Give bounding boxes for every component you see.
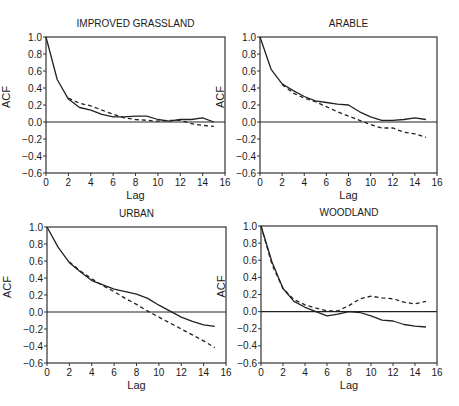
x-tick-label: 16 — [219, 177, 231, 188]
y-tick-label: −0.2 — [237, 323, 257, 334]
panel-urban: URBAN1.00.80.60.40.20.0−0.2−0.4−0.602468… — [1, 208, 232, 391]
x-tick-label: 4 — [301, 177, 307, 188]
x-tick-label: 4 — [302, 367, 308, 378]
x-tick-label: 6 — [324, 177, 330, 188]
x-tick-label: 14 — [198, 367, 210, 378]
y-tick-label: 0.2 — [29, 290, 43, 301]
y-tick-label: 0.0 — [28, 117, 42, 128]
x-tick-label: 14 — [409, 367, 421, 378]
y-tick-label: −0.6 — [22, 168, 42, 179]
y-tick-label: 0.8 — [243, 238, 257, 249]
x-tick-label: 16 — [220, 367, 232, 378]
x-tick-label: 6 — [110, 177, 116, 188]
panel-improved-grassland: IMPROVED GRASSLAND1.00.80.60.40.20.0−0.2… — [0, 18, 231, 201]
x-tick-label: 2 — [67, 367, 73, 378]
series-model-line — [69, 262, 214, 348]
x-axis-label: Lag — [126, 189, 144, 201]
x-tick-label: 12 — [175, 177, 187, 188]
y-tick-label: 1.0 — [29, 222, 43, 233]
x-tick-label: 12 — [387, 177, 399, 188]
y-tick-label: −0.4 — [22, 151, 42, 162]
panel-woodland: WOODLAND1.00.80.60.40.20.0−0.2−0.4−0.602… — [215, 207, 443, 391]
x-tick-label: 0 — [258, 367, 264, 378]
y-tick-label: 0.2 — [243, 289, 257, 300]
y-tick-label: −0.6 — [237, 358, 257, 369]
series-observed-line — [46, 37, 214, 122]
x-tick-label: 6 — [324, 367, 330, 378]
y-tick-label: 1.0 — [243, 221, 257, 232]
series-model-line — [261, 226, 426, 311]
y-tick-label: 0.8 — [242, 49, 256, 60]
y-tick-label: 0.4 — [242, 83, 256, 94]
x-tick-label: 10 — [365, 177, 377, 188]
y-axis-label: ACF — [0, 86, 12, 108]
x-tick-label: 2 — [66, 177, 72, 188]
y-tick-label: −0.2 — [22, 134, 42, 145]
y-tick-label: 0.0 — [242, 117, 256, 128]
x-tick-label: 10 — [152, 177, 164, 188]
x-tick-label: 16 — [431, 367, 443, 378]
x-tick-label: 8 — [134, 367, 140, 378]
y-tick-label: 0.2 — [28, 100, 42, 111]
series-observed-line — [260, 37, 426, 120]
x-tick-label: 0 — [257, 177, 263, 188]
y-axis-label: ACF — [1, 276, 13, 298]
y-tick-label: 0.6 — [243, 255, 257, 266]
x-tick-label: 4 — [89, 367, 95, 378]
acf-figure: IMPROVED GRASSLAND1.00.80.60.40.20.0−0.2… — [0, 0, 459, 406]
series-model-line — [282, 85, 426, 138]
y-tick-label: −0.4 — [23, 341, 43, 352]
x-tick-label: 14 — [409, 177, 421, 188]
x-tick-label: 10 — [365, 367, 377, 378]
chart-title: URBAN — [119, 208, 154, 219]
x-tick-label: 8 — [346, 177, 352, 188]
y-tick-label: −0.6 — [236, 168, 256, 179]
plot-frame — [46, 37, 225, 173]
y-tick-label: −0.2 — [23, 324, 43, 335]
x-axis-label: Lag — [339, 189, 357, 201]
y-tick-label: 0.0 — [29, 307, 43, 318]
y-tick-label: 0.6 — [29, 256, 43, 267]
x-tick-label: 0 — [44, 367, 50, 378]
y-axis-label: ACF — [214, 86, 226, 108]
y-tick-label: 0.0 — [243, 306, 257, 317]
x-tick-label: 6 — [111, 367, 117, 378]
x-tick-label: 12 — [387, 367, 399, 378]
y-tick-label: 1.0 — [28, 32, 42, 43]
chart-title: WOODLAND — [320, 207, 379, 218]
x-tick-label: 2 — [279, 177, 285, 188]
x-tick-label: 14 — [197, 177, 209, 188]
panel-arable: ARABLE1.00.80.60.40.20.0−0.2−0.4−0.60246… — [214, 18, 443, 201]
y-axis-label: ACF — [215, 275, 227, 297]
x-tick-label: 0 — [43, 177, 49, 188]
y-tick-label: 0.4 — [29, 273, 43, 284]
y-tick-label: 0.8 — [28, 49, 42, 60]
x-tick-label: 10 — [153, 367, 165, 378]
chart-title: ARABLE — [329, 18, 369, 29]
y-tick-label: 0.6 — [242, 66, 256, 77]
x-tick-label: 4 — [88, 177, 94, 188]
y-tick-label: 0.2 — [242, 100, 256, 111]
x-tick-label: 8 — [346, 367, 352, 378]
x-axis-label: Lag — [127, 379, 145, 391]
x-tick-label: 8 — [133, 177, 139, 188]
y-tick-label: −0.2 — [236, 134, 256, 145]
y-tick-label: 0.8 — [29, 239, 43, 250]
y-tick-label: 0.4 — [28, 83, 42, 94]
x-axis-label: Lag — [340, 379, 358, 391]
y-tick-label: 0.4 — [243, 272, 257, 283]
y-tick-label: −0.6 — [23, 358, 43, 369]
chart-title: IMPROVED GRASSLAND — [77, 18, 195, 29]
y-tick-label: −0.4 — [237, 340, 257, 351]
y-tick-label: −0.4 — [236, 151, 256, 162]
y-tick-label: 0.6 — [28, 66, 42, 77]
x-tick-label: 12 — [176, 367, 188, 378]
y-tick-label: 1.0 — [242, 32, 256, 43]
plot-frame — [47, 227, 226, 363]
x-tick-label: 16 — [431, 177, 443, 188]
x-tick-label: 2 — [280, 367, 286, 378]
